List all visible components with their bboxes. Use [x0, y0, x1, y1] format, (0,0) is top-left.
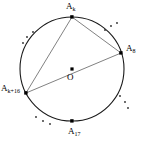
vertex-label-right-main: A	[126, 43, 133, 53]
vertex-label-left-sub: k+16	[8, 88, 20, 94]
vertex-label-top: Ak	[66, 2, 76, 11]
vertex-point-left	[24, 91, 27, 94]
vertex-label-bottom: A17	[68, 127, 81, 136]
vertex-point-bottom	[70, 119, 73, 122]
vertex-point-top	[70, 15, 73, 18]
vertex-label-left: Ak+16	[1, 84, 20, 93]
vertex-point-right	[119, 51, 122, 54]
center-label: O	[67, 73, 74, 82]
vertex-label-bottom-sub: 17	[75, 131, 81, 137]
vertex-label-right-sub: 8	[133, 48, 136, 54]
vertex-label-top-main: A	[66, 1, 73, 11]
chord-top-left	[26, 17, 72, 93]
vertex-label-top-sub: k	[73, 6, 76, 12]
ellipsis-lower-right	[119, 95, 129, 109]
vertex-label-bottom-main: A	[68, 126, 75, 136]
vertex-label-right: A8	[126, 44, 136, 53]
geometry-figure: Ak A8 Ak+16 A17 O	[0, 0, 145, 142]
chord-top-right	[72, 17, 121, 53]
vertex-label-left-main: A	[1, 83, 8, 93]
center-point-marker	[70, 67, 73, 70]
ellipsis-lower-left	[35, 116, 51, 125]
figure-canvas	[0, 0, 145, 142]
